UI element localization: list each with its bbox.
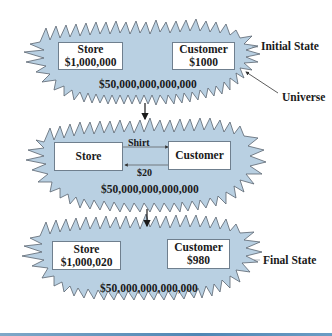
customer-label: Customer <box>174 241 223 254</box>
store-label: Store <box>76 150 102 163</box>
customer-label: Customer <box>179 43 228 56</box>
store-label: Store <box>74 243 100 256</box>
store-box-final: Store $1,000,020 <box>52 241 121 270</box>
customer-amount: $1000 <box>189 56 218 69</box>
universe-label: Universe <box>282 91 325 103</box>
customer-amount: $980 <box>187 254 210 267</box>
store-amount: $1,000,020 <box>61 256 113 269</box>
final-state-label: Final State <box>263 254 316 266</box>
universe-total-initial: $50,000,000,000,000 <box>99 78 197 90</box>
customer-label: Customer <box>175 149 224 162</box>
store-label: Store <box>78 43 104 56</box>
customer-box-initial: Customer $1000 <box>172 42 235 70</box>
universe-total-transaction: $50,000,000,000,000 <box>101 183 199 195</box>
diagram-canvas: Store $1,000,000 Customer $1000 $50,000,… <box>0 0 332 336</box>
shirt-flow-label: Shirt <box>128 137 150 148</box>
money-flow-label: $20 <box>137 167 152 178</box>
customer-box-final: Customer $980 <box>167 239 230 269</box>
store-amount: $1,000,000 <box>65 56 117 69</box>
store-box-transaction: Store <box>54 142 123 171</box>
universe-total-final: $50,000,000,000,000 <box>100 282 198 294</box>
store-box-initial: Store $1,000,000 <box>58 42 123 70</box>
customer-box-transaction: Customer <box>168 141 231 170</box>
initial-state-label: Initial State <box>261 40 319 52</box>
universe-pointer-arrow <box>246 72 278 93</box>
